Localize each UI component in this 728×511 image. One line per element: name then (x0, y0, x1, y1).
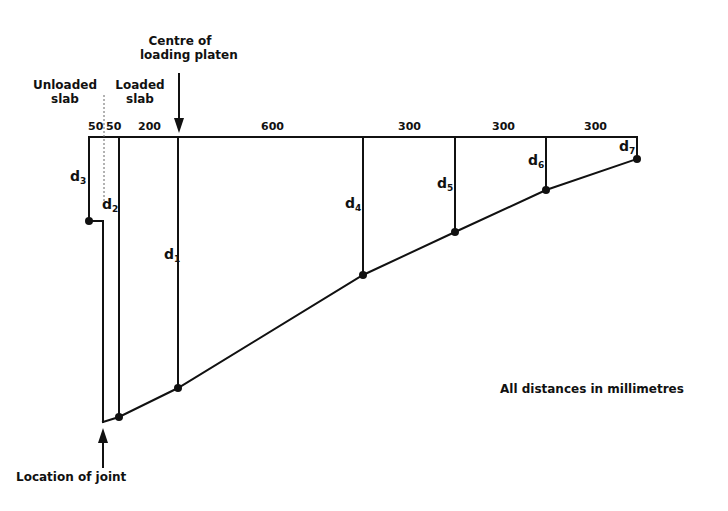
d5-point (451, 228, 459, 236)
dimension-300-c: 300 (584, 120, 607, 134)
centre-label-line1: Centre of (140, 34, 220, 48)
d6-point (542, 186, 550, 194)
loaded-label-line2: slab (110, 92, 170, 106)
d1-point (174, 384, 182, 392)
dimension-200: 200 (138, 120, 161, 134)
d7-point (633, 155, 641, 163)
centre-of-loading-platen-label: Centre of loading platen (140, 34, 220, 62)
d1-label: d1 (164, 246, 180, 264)
dimension-300-b: 300 (492, 120, 515, 134)
centre-label-line2: loading platen (140, 48, 220, 62)
location-of-joint-label: Location of joint (16, 470, 126, 484)
d2-point (115, 413, 123, 421)
units-note: All distances in millimetres (500, 382, 684, 396)
d6-label: d6 (528, 152, 544, 170)
dimension-600: 600 (261, 120, 284, 134)
loaded-label-line1: Loaded (110, 78, 170, 92)
diagram-canvas (0, 0, 728, 511)
loaded-slab-label: Loaded slab (110, 78, 170, 106)
d7-label: d7 (619, 138, 635, 156)
d4-label: d4 (345, 195, 361, 213)
unloaded-label-line1: Unloaded (30, 78, 100, 92)
dimension-50-unloaded: 50 (88, 120, 103, 134)
deflection-diagram: Centre of loading platen Unloaded slab L… (0, 0, 728, 511)
joint-step-line (89, 221, 103, 422)
unloaded-slab-label: Unloaded slab (30, 78, 100, 106)
d3-label: d3 (70, 168, 86, 186)
joint-arrow-icon (98, 428, 108, 468)
loading-arrow-icon (174, 73, 184, 133)
d5-label: d5 (437, 175, 453, 193)
d3-point (85, 217, 93, 225)
unloaded-label-line2: slab (30, 92, 100, 106)
d4-point (359, 271, 367, 279)
dimension-300-a: 300 (398, 120, 421, 134)
dimension-50-loaded: 50 (106, 120, 121, 134)
d2-label: d2 (102, 196, 118, 214)
